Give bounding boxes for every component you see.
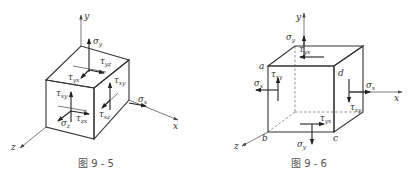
tau-yx-bottom-label: τyx — [320, 113, 332, 125]
sigma-x-right-label: σx — [366, 80, 376, 91]
tau-yx-arrow — [81, 70, 89, 78]
sigma-z-label: σz — [61, 118, 71, 129]
sigma-y-top-label: σy — [286, 32, 296, 44]
sigma-x-label: σx — [138, 94, 148, 105]
tau-yz-label: τyz — [100, 56, 112, 68]
tau-xy-left-label: τxy — [271, 69, 283, 81]
corner-b-label: b — [262, 133, 268, 143]
z-axis-hidden — [268, 112, 295, 132]
tau-yx-label: τyx — [68, 72, 80, 84]
y-axis-label: y — [83, 11, 90, 21]
tau-zx-label: τzx — [76, 113, 88, 124]
z-axis-label: z — [233, 141, 239, 151]
y-axis-label: y — [295, 12, 302, 22]
tau-xy-right-label: τxy — [114, 75, 126, 87]
x-axis — [129, 100, 178, 120]
figure-caption: 图 9 - 6 — [291, 158, 327, 169]
tau-zy-front-label: τxy — [56, 88, 68, 100]
tau-xy-right-label: τxy — [350, 102, 362, 114]
figure-9-5: y x z σy τyz τyx τxy τxz σx τxy τzx — [10, 11, 178, 169]
corner-c-label: c — [333, 133, 338, 143]
tau-xz-label: τxz — [99, 109, 111, 120]
corner-a-label: a — [259, 61, 264, 71]
sigma-y-bottom-label: σy — [297, 139, 307, 151]
tau-xz-arrow — [102, 100, 110, 108]
z-axis-label: z — [10, 142, 16, 152]
cube-front-face — [46, 80, 94, 139]
sigma-x-left-label: σx — [254, 78, 264, 89]
x-axis-label: x — [394, 93, 399, 103]
figure-caption: 图 9 - 5 — [78, 158, 114, 169]
front-face-hatch — [58, 106, 87, 111]
corner-d-label: d — [338, 68, 344, 78]
stress-element-diagrams: y x z σy τyz τyx τxy τxz σx τxy τzx — [0, 0, 412, 181]
sigma-y-label: σy — [93, 36, 103, 48]
figure-9-6: y x z a b c d σy τyx τxy σx τxy — [233, 12, 402, 169]
x-axis-label: x — [173, 121, 178, 131]
z-axis — [20, 127, 46, 148]
